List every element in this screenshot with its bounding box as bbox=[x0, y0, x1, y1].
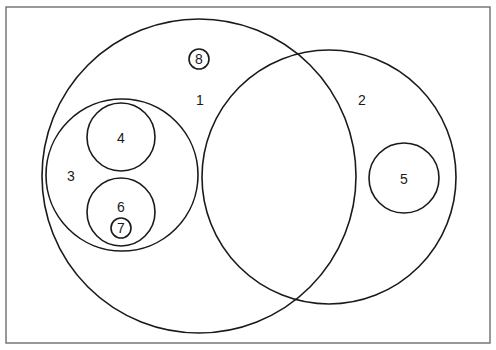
set-label-7: 7 bbox=[117, 220, 125, 236]
set-diagram: 12345678 bbox=[0, 0, 496, 350]
set-circles bbox=[42, 19, 456, 333]
set-label-5: 5 bbox=[400, 171, 408, 187]
set-label-1: 1 bbox=[196, 92, 204, 108]
set-label-6: 6 bbox=[117, 199, 125, 215]
set-label-3: 3 bbox=[67, 168, 75, 184]
set-label-4: 4 bbox=[117, 130, 125, 146]
diagram-frame bbox=[6, 7, 490, 343]
set-labels: 12345678 bbox=[67, 51, 408, 236]
set-label-2: 2 bbox=[358, 92, 366, 108]
set-label-8: 8 bbox=[195, 51, 203, 67]
